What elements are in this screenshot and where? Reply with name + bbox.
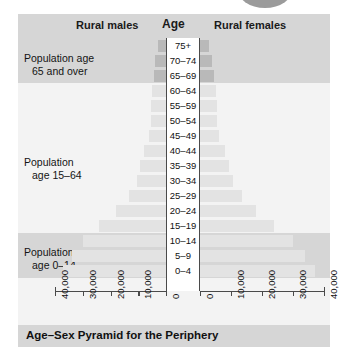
x-axis-tick-label: 20,000 [266, 270, 277, 299]
x-axis-tick [293, 291, 294, 296]
bar-female-45–49 [200, 130, 219, 142]
x-axis-tick [200, 291, 201, 296]
age-group-label: 45–49 [166, 128, 200, 143]
bar-male-50–54 [151, 115, 166, 127]
bar-male-15–19 [99, 220, 166, 232]
bar-male-40–44 [144, 145, 166, 157]
x-axis-tick [83, 291, 84, 296]
x-axis-tick-label: 10,000 [235, 270, 246, 299]
x-axis-tick-label: 0 [170, 294, 181, 299]
bar-female-50–54 [200, 115, 217, 127]
x-axis-tick [111, 291, 112, 296]
age-group-label: 35–39 [166, 158, 200, 173]
age-group-label: 10–14 [166, 233, 200, 248]
bar-male-5–9 [72, 250, 166, 262]
decorative-corner-blob [237, 0, 293, 8]
age-group-label: 65–69 [166, 68, 200, 83]
age-group-label: 55–59 [166, 98, 200, 113]
bar-female-5–9 [200, 250, 305, 262]
bar-male-30–34 [137, 175, 166, 187]
pyramid-plot-area: 75+70–7465–6960–6455–5950–5445–4940–4435… [18, 38, 330, 291]
band-annotation-line: Population age [24, 52, 94, 65]
x-axis-tick [138, 291, 139, 296]
x-axis-tick-label: 10,000 [142, 270, 153, 299]
bar-female-15–19 [200, 220, 274, 232]
column-title-rural-females: Rural females [214, 19, 286, 31]
bar-male-75+ [158, 40, 166, 52]
bar-female-60–64 [200, 85, 216, 97]
bar-female-30–34 [200, 175, 233, 187]
bar-male-70–74 [155, 55, 166, 67]
x-axis-tick-label: 40,000 [328, 270, 339, 299]
x-axis-tick-label: 0 [204, 294, 215, 299]
figure-caption: Age–Sex Pyramid for the Periphery [26, 329, 218, 341]
bar-female-20–24 [200, 205, 256, 217]
x-axis-tick-label: 30,000 [297, 270, 308, 299]
band-annotation-line: Population [24, 156, 82, 169]
age-group-label: 15–19 [166, 218, 200, 233]
age-group-label: 50–54 [166, 113, 200, 128]
bar-female-70–74 [200, 55, 212, 67]
age-group-label: 5–9 [166, 248, 200, 263]
band-annotation-1: Populationage 15–64 [24, 156, 82, 181]
bar-male-65–69 [154, 70, 166, 82]
column-title-age: Age [162, 17, 185, 31]
x-axis-tick [166, 291, 167, 296]
band-annotation-line: age 15–64 [24, 169, 82, 182]
x-axis-tick [262, 291, 263, 296]
age-group-label: 0–4 [166, 263, 200, 278]
age-group-label: 25–29 [166, 188, 200, 203]
bar-male-35–39 [140, 160, 166, 172]
bar-male-10–14 [83, 235, 166, 247]
x-axis-tick-label: 40,000 [59, 270, 70, 299]
bar-female-10–14 [200, 235, 293, 247]
bar-male-25–29 [129, 190, 166, 202]
x-axis-tick-label: 20,000 [115, 270, 126, 299]
x-axis-end-cap [324, 287, 325, 292]
bar-female-55–59 [200, 100, 217, 112]
band-annotation-line: 65 and over [24, 65, 94, 78]
bar-male-60–64 [152, 85, 166, 97]
x-axis-group: 40,00030,00020,00010,0000010,00020,00030… [18, 291, 330, 303]
band-annotation-line: Population [24, 246, 76, 259]
age-group-label: 40–44 [166, 143, 200, 158]
caption-bar: Age–Sex Pyramid for the Periphery [18, 325, 330, 347]
age-group-label: 75+ [166, 38, 200, 53]
bar-male-55–59 [151, 100, 166, 112]
bar-male-45–49 [149, 130, 166, 142]
x-axis-tick-label: 30,000 [87, 270, 98, 299]
age-group-label: 70–74 [166, 53, 200, 68]
bar-female-65–69 [200, 70, 214, 82]
bar-female-40–44 [200, 145, 225, 157]
bar-female-35–39 [200, 160, 229, 172]
age-group-label: 30–34 [166, 173, 200, 188]
bar-female-25–29 [200, 190, 242, 202]
population-pyramid-figure: Rural males Age Rural females 75+70–7465… [18, 14, 330, 347]
bar-male-20–24 [116, 205, 166, 217]
x-axis-tick [231, 291, 232, 296]
age-group-label: 20–24 [166, 203, 200, 218]
band-annotation-0: Population age65 and over [24, 52, 94, 77]
bar-female-75+ [200, 40, 209, 52]
x-axis-end-cap [55, 287, 56, 292]
chart-header-strip: Rural males Age Rural females [18, 14, 330, 38]
age-group-label: 60–64 [166, 83, 200, 98]
column-title-rural-males: Rural males [76, 19, 138, 31]
